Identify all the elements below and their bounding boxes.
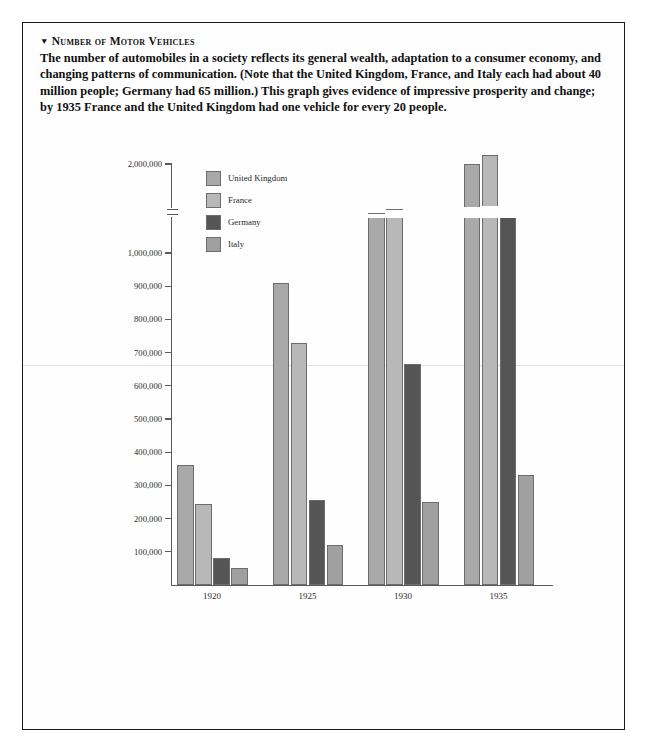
- legend-label: France: [228, 195, 252, 205]
- bar-united-kingdom-1920: [177, 465, 194, 585]
- legend-item-france: France: [206, 189, 287, 211]
- bar-france-1935-upper: [482, 155, 499, 206]
- bar-united-kingdom-1925: [273, 283, 290, 585]
- x-axis-label-1935: 1935: [490, 591, 508, 601]
- figure-page: ▼Number of Motor Vehicles The number of …: [0, 0, 647, 752]
- y-tick-mark: [165, 252, 172, 253]
- y-tick-label: 400,000: [23, 447, 162, 457]
- bar-united-kingdom-1935-lower: [464, 218, 481, 586]
- y-axis-line: [171, 165, 172, 585]
- caption-block: ▼Number of Motor Vehicles The number of …: [40, 35, 607, 115]
- y-tick-label: 300,000: [23, 480, 162, 490]
- bar-italy-1925: [327, 545, 344, 585]
- y-tick-mark: [165, 385, 172, 386]
- legend-swatch-icon: [206, 215, 221, 230]
- legend-item-germany: Germany: [206, 211, 287, 233]
- bar-chart: 100,000200,000300,000400,000500,000600,0…: [23, 151, 624, 671]
- y-axis-break-icon: [167, 208, 178, 217]
- figure-border-box: ▼Number of Motor Vehicles The number of …: [22, 22, 625, 730]
- y-tick-label: 800,000: [23, 314, 162, 324]
- y-tick-mark: [165, 418, 172, 419]
- bar-italy-1935: [518, 475, 535, 585]
- y-tick-label: 200,000: [23, 514, 162, 524]
- caption-title-text: Number of Motor Vehicles: [52, 35, 195, 47]
- bar-united-kingdom-1930-lower: [368, 218, 385, 586]
- y-tick-mark: [165, 352, 172, 353]
- legend-item-united-kingdom: United Kingdom: [206, 167, 287, 189]
- bar-germany-1935-lower: [500, 218, 517, 586]
- legend-swatch-icon: [206, 171, 221, 186]
- y-tick-mark: [165, 286, 172, 287]
- legend-swatch-icon: [206, 237, 221, 252]
- bar-germany-1920: [213, 558, 230, 585]
- bar-france-1920: [195, 504, 212, 585]
- y-tick-label: 900,000: [23, 281, 162, 291]
- legend-label: Italy: [228, 239, 244, 249]
- x-axis-label-1920: 1920: [203, 591, 221, 601]
- y-tick-mark: [165, 163, 172, 164]
- bar-germany-1925: [309, 500, 326, 585]
- bar-united-kingdom-1930-upper: [368, 213, 385, 214]
- y-tick-mark: [165, 551, 172, 552]
- legend-label: United Kingdom: [228, 173, 287, 183]
- triangle-marker-icon: ▼: [40, 36, 49, 46]
- bar-france-1930-upper: [386, 209, 403, 210]
- bar-italy-1920: [231, 568, 248, 585]
- caption-body: The number of automobiles in a society r…: [40, 50, 607, 115]
- bar-france-1930-lower: [386, 218, 403, 586]
- y-tick-label: 2,000,000: [23, 159, 162, 169]
- bar-germany-1930: [404, 364, 421, 585]
- legend-item-italy: Italy: [206, 233, 287, 255]
- bar-france-1935-lower: [482, 218, 499, 586]
- y-tick-label: 700,000: [23, 348, 162, 358]
- caption-title: ▼Number of Motor Vehicles: [40, 35, 607, 47]
- legend-swatch-icon: [206, 193, 221, 208]
- bar-france-1925: [291, 343, 308, 585]
- x-axis-line: [171, 585, 553, 586]
- x-axis-label-1925: 1925: [299, 591, 317, 601]
- y-tick-mark: [165, 319, 172, 320]
- y-tick-label: 600,000: [23, 381, 162, 391]
- bar-united-kingdom-1935-upper: [464, 164, 481, 207]
- chart-legend: United KingdomFranceGermanyItaly: [206, 167, 287, 255]
- bar-italy-1930: [422, 502, 439, 585]
- y-tick-label: 500,000: [23, 414, 162, 424]
- x-axis-label-1930: 1930: [394, 591, 412, 601]
- y-tick-label: 100,000: [23, 547, 162, 557]
- y-tick-mark: [165, 485, 172, 486]
- y-tick-label: 1,000,000: [23, 248, 162, 258]
- legend-label: Germany: [228, 217, 261, 227]
- y-tick-mark: [165, 452, 172, 453]
- y-tick-mark: [165, 518, 172, 519]
